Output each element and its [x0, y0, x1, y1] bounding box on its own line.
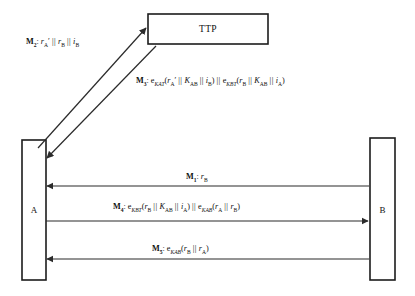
message-label-m4: M4: eKBT(rB || KAB || iA) || eKAB(rA || … — [113, 203, 240, 211]
protocol-diagram: TTP A B M2: rA′ || rB || iB M3: eKAT(rA′… — [0, 0, 415, 296]
message-payload-m3: : eKAT(rA′ || KAB || iB) || eKBT(rB || K… — [147, 76, 285, 85]
message-tag-m4: M4 — [113, 202, 124, 211]
message-payload-m1: : rB — [197, 172, 208, 181]
message-payload-m5: : eKAB(rB || rA) — [163, 244, 209, 253]
message-payload-m4: : eKBT(rB || KAB || iA) || eKAB(rA || rB… — [124, 202, 241, 211]
node-a-label: A — [31, 205, 38, 215]
message-label-m1: M1: rB — [186, 173, 208, 181]
node-ttp-label: TTP — [199, 24, 217, 34]
message-label-m2: M2: rA′ || rB || iB — [26, 38, 79, 46]
message-label-m5: M5: eKAB(rB || rA) — [152, 245, 209, 253]
message-tag-m2: M2 — [26, 37, 37, 46]
node-b-label: B — [379, 205, 385, 215]
message-tag-m5: M5 — [152, 244, 163, 253]
message-label-m3: M3: eKAT(rA′ || KAB || iB) || eKBT(rB ||… — [136, 77, 285, 85]
message-payload-m2: : rA′ || rB || iB — [37, 37, 80, 46]
message-tag-m1: M1 — [186, 172, 197, 181]
arrow-m3 — [47, 46, 156, 158]
message-tag-m3: M3 — [136, 76, 147, 85]
